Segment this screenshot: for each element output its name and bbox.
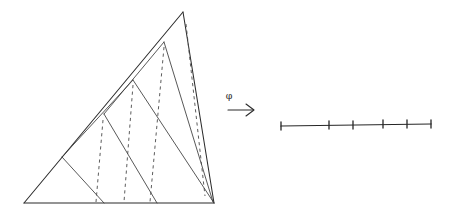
map-arrow-group: φ bbox=[226, 90, 254, 116]
dashed-cut-1 bbox=[96, 120, 103, 202]
solid-cut-4 bbox=[164, 42, 213, 202]
solid-cut-2 bbox=[104, 114, 157, 203]
solid-cut-6 bbox=[104, 42, 164, 114]
segment-group bbox=[281, 120, 431, 130]
figure-canvas: φ bbox=[0, 0, 451, 222]
segment-line bbox=[281, 124, 431, 126]
phi-label: φ bbox=[226, 90, 233, 101]
dashed-cut-2 bbox=[124, 85, 133, 202]
triangle-outline bbox=[24, 12, 214, 203]
diagram-svg: φ bbox=[0, 0, 451, 222]
triangle-edge-hypotenuse-left bbox=[24, 12, 183, 203]
triangle-edge-right bbox=[183, 12, 214, 203]
solid-cut-3 bbox=[133, 80, 214, 203]
